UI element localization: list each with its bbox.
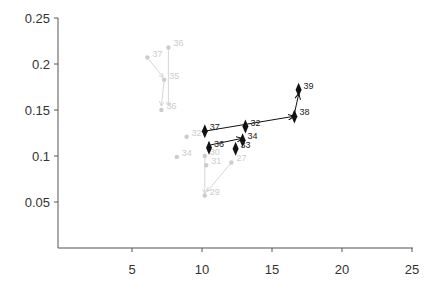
point-label: 39 xyxy=(304,81,314,91)
y-tick-label: 0.25 xyxy=(25,11,50,26)
faded-series: 37363536323430312729 xyxy=(145,38,246,197)
circle-marker xyxy=(203,193,207,197)
point-label: 36 xyxy=(166,101,176,111)
circle-marker xyxy=(203,154,207,158)
x-tick-label: 10 xyxy=(195,262,209,277)
point-label: 32 xyxy=(192,128,202,138)
circle-marker xyxy=(159,108,163,112)
point-label: 38 xyxy=(299,107,309,117)
point-label: 37 xyxy=(152,49,162,59)
point-label: 33 xyxy=(241,140,251,150)
circle-marker xyxy=(145,55,149,59)
diamond-marker xyxy=(296,83,302,97)
point-label: 37 xyxy=(210,122,220,132)
circle-marker xyxy=(184,134,188,138)
point-label: 32 xyxy=(250,118,260,128)
arrow xyxy=(294,94,298,113)
circle-marker xyxy=(175,155,179,159)
highlighted-series: 37363234333839 xyxy=(202,81,314,156)
point-label: 35 xyxy=(169,71,179,81)
arrow xyxy=(147,58,162,77)
circle-marker xyxy=(162,77,166,81)
y-tick-label: 0.15 xyxy=(25,103,50,118)
y-tick-label: 0.05 xyxy=(25,195,50,210)
diamond-marker xyxy=(291,109,297,123)
arrow xyxy=(161,80,164,106)
circle-marker xyxy=(229,160,233,164)
diamond-marker xyxy=(202,124,208,138)
y-ticks: 0.050.10.150.20.25 xyxy=(25,11,58,210)
point-label: 36 xyxy=(173,38,183,48)
y-tick-label: 0.2 xyxy=(32,57,50,72)
point-label: 31 xyxy=(211,156,221,166)
scatter-chart: 510152025 0.050.10.150.20.25 37363536323… xyxy=(0,0,441,305)
x-tick-label: 25 xyxy=(405,262,419,277)
circle-marker xyxy=(166,45,170,49)
point-label: 29 xyxy=(210,187,220,197)
x-tick-label: 5 xyxy=(128,262,135,277)
y-tick-label: 0.1 xyxy=(32,149,50,164)
circle-marker xyxy=(204,163,208,167)
x-tick-label: 20 xyxy=(335,262,349,277)
point-label: 36 xyxy=(214,139,224,149)
x-ticks: 510152025 xyxy=(128,248,419,277)
point-label: 27 xyxy=(236,153,246,163)
x-tick-label: 15 xyxy=(265,262,279,277)
point-label: 34 xyxy=(182,148,192,158)
